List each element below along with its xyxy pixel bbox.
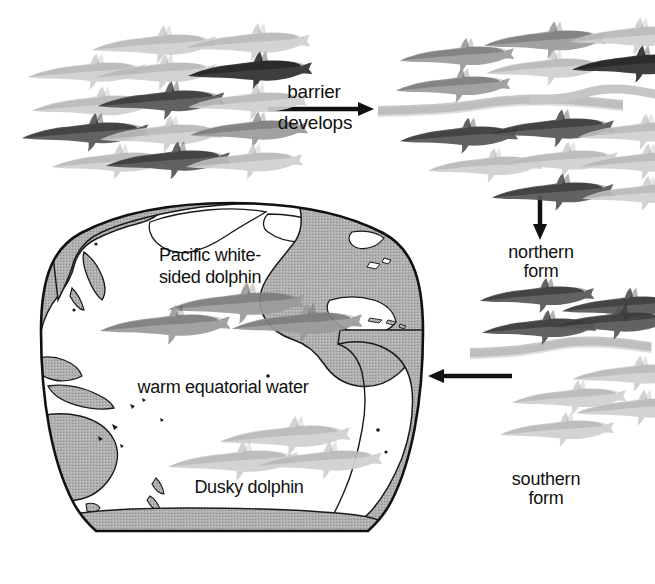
dolphin (486, 50, 604, 86)
land-asia (30, 196, 170, 336)
island-dot-1 (94, 242, 97, 245)
dolphin (572, 356, 655, 392)
dolphin (98, 81, 224, 120)
southern-form-label-line2: form (486, 489, 606, 508)
dolphin (512, 380, 626, 415)
dolphin (578, 114, 655, 150)
barrier-label: barrier (268, 82, 360, 102)
dolphins-northern-form (396, 17, 655, 210)
dolphin (100, 115, 222, 152)
dolphin (492, 173, 614, 210)
dolphin (22, 113, 148, 152)
dolphins-map-south (168, 416, 382, 481)
dolphin (500, 412, 614, 447)
dolphin (32, 86, 154, 123)
pacific-white-sided-dolphin-label-line2: sided dolphin (118, 268, 302, 287)
land-tasmania (86, 503, 100, 512)
northern-form-label-line2: form (483, 262, 599, 281)
dolphin (490, 109, 614, 147)
dolphin (582, 176, 655, 211)
island-group-pacific (98, 398, 164, 448)
dolphins-map-north (100, 282, 362, 344)
land-japan (83, 252, 105, 300)
land-antarctica (66, 508, 392, 540)
dolphin (186, 144, 303, 180)
dolphin (576, 390, 655, 426)
dolphin (484, 21, 606, 58)
sa-dot-2 (384, 450, 387, 453)
land-north-america (260, 208, 428, 387)
dolphin (168, 441, 298, 481)
caribbean-islands (359, 318, 406, 335)
hudson-bay (349, 231, 384, 248)
dolphin (186, 23, 310, 61)
dolphin (400, 38, 514, 73)
dolphin (220, 416, 350, 456)
island-dot-2 (72, 308, 75, 311)
southern-to-map-arrow (428, 369, 512, 383)
southern-form-label-line1: southern (486, 470, 606, 489)
dolphin (500, 142, 618, 178)
dolphin (552, 304, 655, 340)
dolphin (396, 68, 510, 103)
land-japan-south (70, 288, 84, 310)
dolphin (28, 54, 146, 90)
barrier-southern (470, 336, 651, 359)
dolphin (92, 25, 216, 63)
dolphin (96, 53, 216, 90)
dolphin (570, 17, 655, 54)
dolphin (480, 278, 594, 313)
gulf-of-mexico (327, 297, 396, 334)
dolphin (168, 282, 304, 324)
land-australia (26, 414, 117, 501)
dolphin (572, 45, 655, 82)
dolphin (232, 303, 362, 343)
northern-form-arrow (533, 196, 547, 240)
land-southeast-asia (30, 357, 82, 381)
land-south-america (338, 330, 424, 530)
dolphin (580, 144, 655, 180)
great-lakes (367, 258, 391, 269)
land-new-guinea (48, 385, 114, 409)
warm-equatorial-water-label: warm equatorial water (110, 378, 336, 397)
pacific-white-sided-dolphin-label-line1: Pacific white- (118, 246, 302, 265)
dolphin (428, 148, 542, 183)
sa-dot-1 (376, 428, 380, 432)
dolphin (400, 118, 518, 154)
figure-canvas: barrier develops northern form southern … (0, 0, 655, 584)
barrier-northern (378, 84, 655, 117)
south-america-west-coast (326, 344, 365, 528)
dusky-dolphin-label: Dusky dolphin (160, 478, 338, 497)
dolphin (562, 288, 655, 324)
dolphin (52, 144, 170, 180)
northern-form-label-line1: northern (483, 243, 599, 262)
dolphins-southern-form (480, 278, 655, 447)
dolphin (482, 310, 596, 345)
dolphin (258, 441, 382, 479)
dolphin (106, 141, 230, 179)
develops-label: develops (262, 113, 368, 133)
gulf-of-alaska (264, 214, 343, 242)
dolphin (100, 305, 230, 345)
